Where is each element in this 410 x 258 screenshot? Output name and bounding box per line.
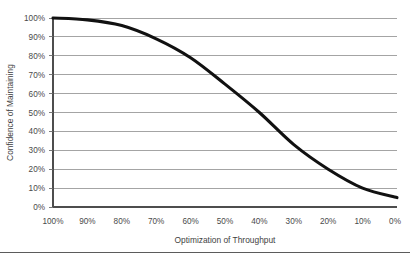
x-tick-label-70: 70% <box>148 217 164 226</box>
y-tick-label-30: 30% <box>29 146 45 155</box>
x-tick-label-50: 50% <box>217 217 233 226</box>
x-tick-label-80: 80% <box>114 217 130 226</box>
y-tick-label-0: 0% <box>33 203 45 212</box>
y-tick-label-40: 40% <box>29 127 45 136</box>
y-tick-label-10: 10% <box>29 184 45 193</box>
x-tick-label-60: 60% <box>182 217 198 226</box>
y-tick-label-50: 50% <box>29 109 45 118</box>
x-tick-label-20: 20% <box>320 217 336 226</box>
x-tick-label-10: 10% <box>354 217 370 226</box>
y-tick-label-90: 90% <box>29 33 45 42</box>
y-tick-label-80: 80% <box>29 52 45 61</box>
y-tick-label-70: 70% <box>29 71 45 80</box>
y-tick-label-60: 60% <box>29 90 45 99</box>
chart-canvas: 100% 90% 80% 70% 60% 50% 40% 30% 20% 10%… <box>0 0 410 258</box>
y-axis-title: Confidence of Maintaining <box>5 64 15 161</box>
x-tick-label-30: 30% <box>286 217 302 226</box>
chart-figure: 100% 90% 80% 70% 60% 50% 40% 30% 20% 10%… <box>0 0 410 258</box>
y-tick-label-20: 20% <box>29 165 45 174</box>
x-tick-label-90: 90% <box>79 217 95 226</box>
x-axis-title: Optimization of Throughput <box>175 235 277 245</box>
x-tick-label-0: 0% <box>389 217 401 226</box>
y-tick-label-100: 100% <box>24 14 45 23</box>
x-tick-label-100: 100% <box>43 217 64 226</box>
x-tick-label-40: 40% <box>251 217 267 226</box>
